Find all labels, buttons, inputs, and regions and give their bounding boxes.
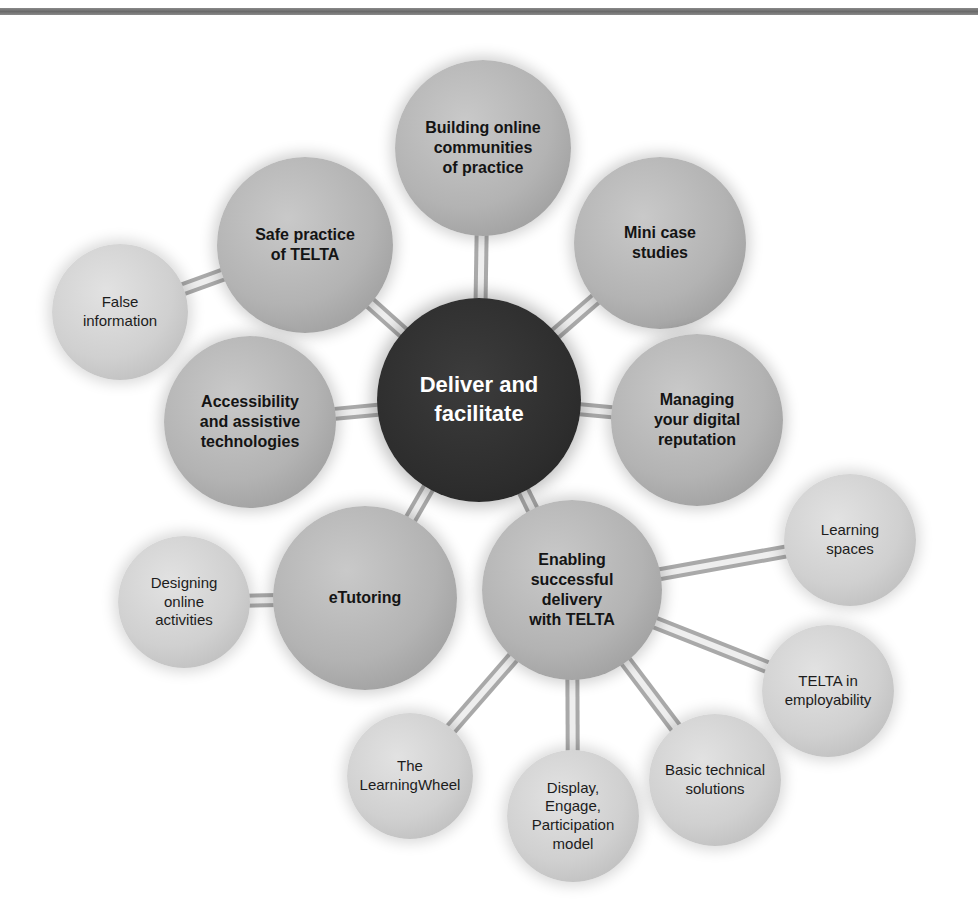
node-basic[interactable]: Basic technical solutions [649, 714, 781, 846]
node-designing[interactable]: Designing online activities [118, 536, 250, 668]
node-label: False information [83, 293, 157, 331]
node-learning[interactable]: Learning spaces [784, 474, 916, 606]
node-label: TELTA in employability [785, 672, 872, 710]
node-etutoring[interactable]: eTutoring [273, 506, 457, 690]
connector-highlight [408, 483, 431, 523]
node-label: Safe practice of TELTA [255, 225, 355, 265]
node-label: Basic technical solutions [665, 761, 765, 799]
node-managing[interactable]: Managing your digital reputation [611, 334, 783, 506]
connector-highlight [623, 657, 679, 732]
connector-highlight [366, 300, 407, 337]
node-label: Mini case studies [624, 223, 696, 263]
node-label: Building online communities of practice [425, 118, 541, 178]
connector-highlight [552, 295, 600, 337]
connector-highlight [655, 551, 791, 576]
node-false[interactable]: False information [52, 244, 188, 380]
node-wheel[interactable]: The LearningWheel [347, 713, 473, 839]
connector-highlight [481, 230, 482, 304]
node-label: Managing your digital reputation [654, 390, 740, 450]
node-label: Display, Engage, Participation model [532, 779, 615, 854]
node-building[interactable]: Building online communities of practice [395, 60, 571, 236]
node-label: Enabling successful delivery with TELTA [529, 550, 615, 630]
node-employ[interactable]: TELTA in employability [762, 625, 894, 757]
node-label: The LearningWheel [360, 757, 461, 795]
node-display[interactable]: Display, Engage, Participation model [507, 750, 639, 882]
center-node-label: Deliver and facilitate [420, 371, 539, 428]
node-label: Designing online activities [151, 574, 218, 630]
node-mini[interactable]: Mini case studies [574, 157, 746, 329]
connector-highlight [650, 621, 772, 669]
connector-highlight [447, 653, 516, 733]
center-node-deliver-and-facilitate[interactable]: Deliver and facilitate [377, 298, 581, 502]
node-label: Learning spaces [821, 521, 879, 559]
node-label: eTutoring [329, 588, 402, 608]
node-safe[interactable]: Safe practice of TELTA [217, 157, 393, 333]
node-access[interactable]: Accessibility and assistive technologies [164, 336, 336, 508]
node-enabling[interactable]: Enabling successful delivery with TELTA [482, 500, 662, 680]
node-label: Accessibility and assistive technologies [200, 392, 301, 452]
